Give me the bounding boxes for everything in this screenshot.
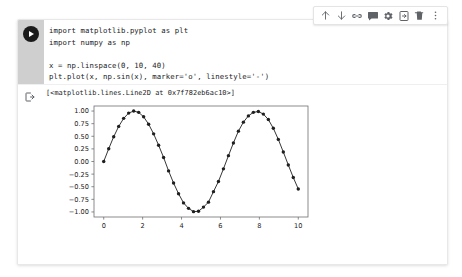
- series-marker: [177, 192, 180, 195]
- series-marker: [252, 111, 255, 114]
- series-marker: [202, 205, 205, 208]
- x-tick-label: 4: [179, 222, 183, 230]
- output-repr-text: [<matplotlib.lines.Line2D at 0x7f782eb6a…: [46, 88, 447, 98]
- series-marker: [232, 141, 235, 144]
- series-marker: [172, 181, 175, 184]
- series-marker: [162, 156, 165, 159]
- series-marker: [107, 147, 110, 150]
- x-tick-label: 10: [294, 222, 302, 230]
- code-line: x = np.linspace(0, 10, 40): [49, 60, 441, 72]
- output-body: [<matplotlib.lines.Line2D at 0x7f782eb6a…: [44, 85, 447, 265]
- series-marker: [262, 112, 265, 115]
- series-marker: [287, 163, 290, 166]
- output-display-icon: [24, 89, 36, 101]
- move-cell-up-icon[interactable]: [319, 9, 332, 22]
- y-tick-label: −1.00: [69, 208, 89, 216]
- series-marker: [207, 200, 210, 203]
- mirror-cell-icon[interactable]: [398, 9, 411, 22]
- y-tick-label: 1.00: [74, 107, 89, 115]
- y-tick-label: 0.50: [74, 133, 89, 141]
- delete-cell-icon[interactable]: [413, 9, 426, 22]
- code-cell[interactable]: import matplotlib.pyplot as plt import n…: [18, 20, 447, 85]
- series-marker: [292, 176, 295, 179]
- series-marker: [197, 210, 200, 213]
- series-marker: [192, 210, 195, 213]
- code-line: import matplotlib.pyplot as plt: [49, 25, 441, 37]
- code-line-blank: [49, 48, 441, 60]
- series-marker: [167, 169, 170, 172]
- y-tick-label: 0.25: [74, 145, 89, 153]
- more-options-icon[interactable]: [429, 9, 442, 22]
- play-icon: [29, 31, 34, 37]
- series-marker: [242, 120, 245, 123]
- series-marker: [127, 111, 130, 114]
- code-line: import numpy as np: [49, 37, 441, 49]
- series-marker: [282, 150, 285, 153]
- sine-plot-svg: 02468101.000.750.500.250.00−0.25−0.50−0.…: [58, 99, 314, 239]
- series-marker: [222, 167, 225, 170]
- series-marker: [277, 138, 280, 141]
- series-marker: [257, 110, 260, 113]
- cell-output: [<matplotlib.lines.Line2D at 0x7f782eb6a…: [18, 85, 447, 265]
- series-marker: [152, 132, 155, 135]
- series-marker: [117, 125, 120, 128]
- link-to-cell-icon[interactable]: [350, 9, 363, 22]
- code-editor[interactable]: import matplotlib.pyplot as plt import n…: [44, 20, 447, 84]
- series-marker: [217, 180, 220, 183]
- series-marker: [212, 190, 215, 193]
- y-tick-label: 0.75: [74, 120, 89, 128]
- series-marker: [102, 160, 105, 163]
- matplotlib-figure: 02468101.000.750.500.250.00−0.25−0.50−0.…: [58, 99, 314, 239]
- x-tick-label: 6: [218, 222, 222, 230]
- add-comment-icon[interactable]: [366, 9, 379, 22]
- move-cell-down-icon[interactable]: [335, 9, 348, 22]
- series-marker: [267, 118, 270, 121]
- series-marker: [122, 117, 125, 120]
- series-marker: [247, 114, 250, 117]
- code-line: plt.plot(x, np.sin(x), marker='o', lines…: [49, 71, 441, 83]
- series-marker: [137, 111, 140, 114]
- run-cell-button[interactable]: [23, 26, 39, 42]
- series-marker: [187, 207, 190, 210]
- cell-settings-gear-icon[interactable]: [382, 9, 395, 22]
- series-marker: [157, 143, 160, 146]
- x-tick-label: 2: [141, 222, 145, 230]
- notebook-cell: import matplotlib.pyplot as plt import n…: [17, 19, 448, 265]
- series-marker: [147, 122, 150, 125]
- series-marker: [142, 115, 145, 118]
- y-tick-label: 0.00: [74, 158, 89, 166]
- output-gutter: [18, 85, 44, 265]
- series-marker: [132, 109, 135, 112]
- y-tick-label: −0.25: [69, 171, 89, 179]
- series-marker: [227, 154, 230, 157]
- y-tick-label: −0.50: [69, 183, 89, 191]
- series-marker: [237, 129, 240, 132]
- series-marker: [297, 187, 300, 190]
- x-tick-label: 8: [257, 222, 261, 230]
- series-marker: [182, 201, 185, 204]
- y-tick-label: −0.75: [69, 196, 89, 204]
- cell-toolbar: [313, 6, 448, 25]
- x-tick-label: 0: [102, 222, 106, 230]
- series-marker: [112, 135, 115, 138]
- series-marker: [272, 127, 275, 130]
